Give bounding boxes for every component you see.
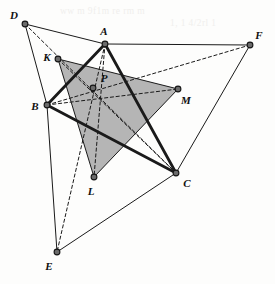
edge-D-A [25, 24, 105, 44]
bleed-through-text-0: ww m 9f1m re rm m [60, 6, 145, 16]
bleed-through-text-1: 1, 1 4/2rl 1 [170, 18, 217, 28]
vertex-label-e: E [45, 261, 52, 272]
vertex-dot-a[interactable] [102, 41, 108, 47]
vertex-label-c: C [183, 178, 190, 189]
vertex-label-f: F [255, 30, 262, 41]
vertex-dot-layer [22, 21, 253, 255]
vertex-dot-l[interactable] [91, 174, 97, 180]
vertex-label-m: M [181, 95, 191, 106]
vertex-dot-b[interactable] [44, 102, 50, 108]
vertex-dot-d[interactable] [22, 21, 28, 27]
vertex-label-a: A [100, 26, 107, 37]
vertex-label-d: D [10, 10, 18, 21]
edge-A-F [105, 44, 250, 45]
edge-F-C [176, 45, 250, 173]
edge-E-B [47, 105, 57, 252]
vertex-label-l: L [88, 186, 95, 197]
vertex-dot-m[interactable] [175, 86, 181, 92]
vertex-dot-p[interactable] [90, 85, 96, 91]
geometry-figure: ABCDEFKLMP ww m 9f1m re rm m1, 1 4/2rl 1 [0, 0, 275, 284]
vertex-label-b: B [31, 101, 38, 112]
vertex-dot-f[interactable] [247, 42, 253, 48]
edge-C-E [57, 173, 176, 252]
vertex-dot-k[interactable] [55, 56, 61, 62]
edge-B-D [25, 24, 47, 105]
vertex-dot-c[interactable] [173, 170, 179, 176]
vertex-label-k: K [43, 52, 50, 63]
vertex-label-p: P [101, 73, 108, 84]
geometry-canvas [0, 0, 275, 284]
vertex-dot-e[interactable] [54, 249, 60, 255]
